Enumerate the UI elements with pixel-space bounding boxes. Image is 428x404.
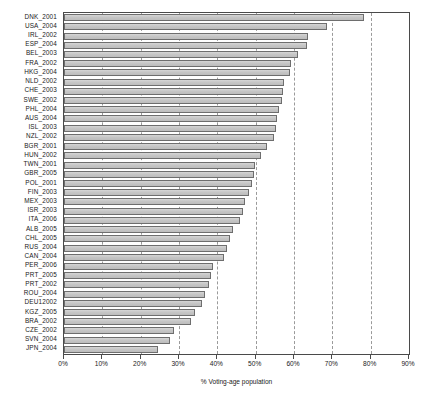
bar-row: [64, 152, 409, 159]
y-axis-label-jpn_2004: JPN_2004: [26, 344, 57, 351]
bar-row: [64, 125, 409, 132]
bar-row: [64, 198, 409, 205]
bar-row: [64, 263, 409, 270]
bar-alb_2005: [64, 226, 233, 233]
bar-cze_2002: [64, 327, 174, 334]
x-tick: [216, 355, 217, 359]
bar-swe_2002: [64, 97, 282, 104]
bar-per_2006: [64, 263, 213, 270]
bar-row: [64, 226, 409, 233]
y-axis-label-pol_2001: POL_2001: [25, 179, 57, 186]
bar-row: [64, 235, 409, 242]
bar-row: [64, 69, 409, 76]
bar-row: [64, 337, 409, 344]
y-axis-label-nzl_2002: NZL_2002: [26, 132, 57, 139]
bar-row: [64, 51, 409, 58]
y-axis-labels: DNK_2001USA_2004IRL_2002ESP_2004BEL_2003…: [0, 12, 60, 355]
bar-row: [64, 162, 409, 169]
y-axis-label-deu12002: DEU12002: [25, 298, 57, 305]
bar-usa_2004: [64, 23, 327, 30]
bar-isl_2003: [64, 125, 276, 132]
y-axis-label-isl_2003: ISL_2003: [28, 123, 57, 130]
y-axis-label-rus_2004: RUS_2004: [25, 243, 57, 250]
bar-bgr_2001: [64, 143, 267, 150]
bar-esp_2004: [64, 42, 307, 49]
y-axis-label-prt_2002: PRT_2002: [25, 280, 57, 287]
bar-row: [64, 79, 409, 86]
y-axis-label-esp_2004: ESP_2004: [25, 40, 57, 47]
bar-row: [64, 33, 409, 40]
bar-chart: DNK_2001USA_2004IRL_2002ESP_2004BEL_2003…: [0, 0, 428, 404]
bar-row: [64, 134, 409, 141]
bar-rou_2004: [64, 291, 205, 298]
x-axis-title: % Voting-age population: [63, 378, 410, 385]
bar-kgz_2005: [64, 309, 195, 316]
x-tick: [331, 355, 332, 359]
x-tick: [178, 355, 179, 359]
bar-twn_2001: [64, 162, 255, 169]
bar-dnk_2001: [64, 14, 364, 21]
bar-row: [64, 180, 409, 187]
y-axis-label-bra_2002: BRA_2002: [25, 317, 57, 324]
bar-svn_2004: [64, 337, 170, 344]
bar-row: [64, 115, 409, 122]
bar-ita_2006: [64, 217, 240, 224]
bar-row: [64, 143, 409, 150]
bar-row: [64, 14, 409, 21]
bar-row: [64, 245, 409, 252]
y-axis-label-chl_2005: CHL_2005: [25, 234, 57, 241]
y-axis-label-fra_2002: FRA_2002: [25, 59, 57, 66]
x-tick: [370, 355, 371, 359]
y-axis-label-irl_2002: IRL_2002: [28, 31, 57, 38]
y-axis-label-bgr_2001: BGR_2001: [24, 142, 57, 149]
bar-hun_2002: [64, 152, 261, 159]
y-axis-label-gbr_2005: GBR_2005: [24, 169, 57, 176]
bar-jpn_2004: [64, 346, 158, 353]
y-axis-label-per_2006: PER_2006: [25, 261, 57, 268]
bar-row: [64, 97, 409, 104]
y-axis-label-nld_2002: NLD_2002: [25, 77, 57, 84]
bar-row: [64, 254, 409, 261]
x-axis-label-60: 60%: [286, 360, 299, 367]
bar-chl_2005: [64, 235, 230, 242]
bar-row: [64, 346, 409, 353]
bar-irl_2002: [64, 33, 308, 40]
bar-phl_2004: [64, 106, 279, 113]
x-axis-label-0: 0%: [58, 360, 68, 367]
bar-row: [64, 208, 409, 215]
bar-row: [64, 23, 409, 30]
x-axis-label-50: 50%: [248, 360, 261, 367]
bar-bel_2003: [64, 51, 298, 58]
y-axis-label-svn_2004: SVN_2004: [25, 335, 57, 342]
bar-nzl_2002: [64, 134, 274, 141]
bar-row: [64, 171, 409, 178]
bar-row: [64, 42, 409, 49]
y-axis-label-cze_2002: CZE_2002: [25, 326, 57, 333]
plot-area: [63, 12, 410, 355]
bar-prt_2005: [64, 272, 211, 279]
y-axis-label-swe_2002: SWE_2002: [23, 96, 57, 103]
bar-fra_2002: [64, 60, 291, 67]
bar-hkg_2004: [64, 69, 290, 76]
y-axis-label-kgz_2005: KGZ_2005: [25, 308, 57, 315]
x-tick: [140, 355, 141, 359]
y-axis-label-twn_2001: TWN_2001: [23, 160, 57, 167]
bar-row: [64, 106, 409, 113]
y-axis-label-mex_2003: MEX_2003: [24, 197, 57, 204]
plot-inner: [64, 13, 409, 354]
bar-row: [64, 318, 409, 325]
y-axis-label-dnk_2001: DNK_2001: [25, 13, 57, 20]
bar-aus_2004: [64, 115, 277, 122]
bar-row: [64, 327, 409, 334]
bar-row: [64, 189, 409, 196]
x-axis-label-80: 80%: [363, 360, 376, 367]
x-tick: [63, 355, 64, 359]
bar-row: [64, 272, 409, 279]
x-axis-label-30: 30%: [171, 360, 184, 367]
y-axis-label-che_2003: CHE_2003: [25, 86, 57, 93]
x-tick: [293, 355, 294, 359]
bar-mex_2003: [64, 198, 245, 205]
x-axis-label-40: 40%: [210, 360, 223, 367]
bar-prt_2002: [64, 281, 209, 288]
y-axis-label-aus_2004: AUS_2004: [25, 114, 57, 121]
